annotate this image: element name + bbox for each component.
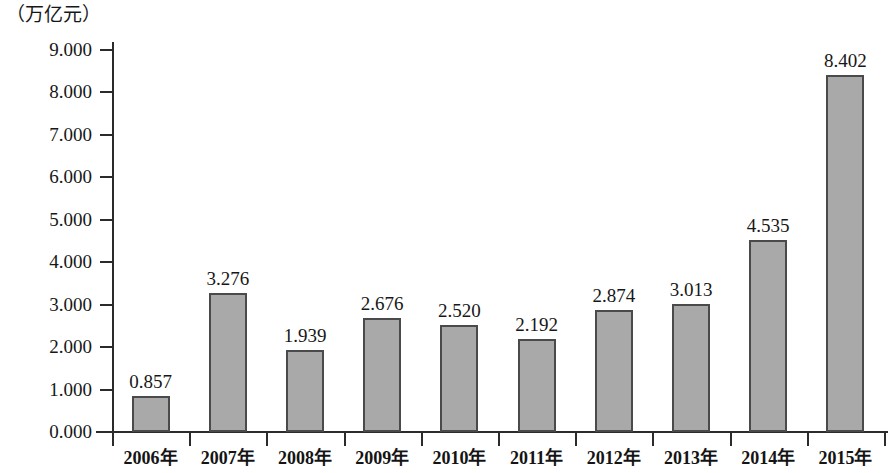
- bar-value-label: 4.535: [728, 216, 808, 236]
- x-axis-tick: [498, 433, 500, 446]
- x-axis-tick: [344, 433, 346, 446]
- x-axis-tick-label: 2010年: [421, 448, 498, 468]
- y-axis-tick: [100, 91, 112, 93]
- bar: [749, 240, 787, 432]
- y-axis-unit-label: （万亿元）: [6, 4, 101, 26]
- y-axis-tick-label: 6.000: [16, 167, 92, 186]
- y-axis-tick-label: 7.000: [16, 125, 92, 144]
- bar: [363, 318, 401, 432]
- x-axis-tick: [421, 433, 423, 446]
- y-axis-tick-label: 3.000: [16, 295, 92, 314]
- y-axis-tick-label: 2.000: [16, 337, 92, 356]
- x-axis-tick: [807, 433, 809, 446]
- bar-value-label: 2.192: [497, 315, 577, 335]
- y-axis-tick: [100, 134, 112, 136]
- x-axis-tick: [730, 433, 732, 446]
- bar-value-label: 2.676: [342, 294, 422, 314]
- x-axis-tick: [266, 433, 268, 446]
- bar: [518, 339, 556, 432]
- bar-value-label: 2.520: [419, 301, 499, 321]
- x-axis-tick-label: 2015年: [807, 448, 884, 468]
- x-axis-tick: [884, 433, 886, 446]
- x-axis-tick-label: 2013年: [652, 448, 729, 468]
- x-axis-tick-label: 2014年: [730, 448, 807, 468]
- y-axis-tick-label: 4.000: [16, 252, 92, 271]
- plot-area: 0.8573.2761.9392.6762.5202.1922.8743.013…: [112, 50, 884, 432]
- x-axis-tick-label: 2011年: [498, 448, 575, 468]
- y-axis-tick: [100, 346, 112, 348]
- x-axis-tick-label: 2007年: [189, 448, 266, 468]
- bar: [209, 293, 247, 432]
- bar: [132, 396, 170, 432]
- bar: [440, 325, 478, 432]
- y-axis-tick-label: 1.000: [16, 380, 92, 399]
- bar: [286, 350, 324, 432]
- bar: [826, 75, 864, 432]
- bar-value-label: 3.276: [188, 269, 268, 289]
- y-axis-tick: [100, 219, 112, 221]
- y-axis-tick: [100, 304, 112, 306]
- bar-chart: （万亿元） 9.0008.0007.0006.0005.0004.0003.00…: [0, 0, 895, 473]
- y-axis-tick-label: 0.000: [16, 422, 92, 441]
- x-axis-tick: [112, 433, 114, 446]
- y-axis-tick: [100, 49, 112, 51]
- x-axis-tick: [652, 433, 654, 446]
- x-axis-tick-label: 2008年: [266, 448, 343, 468]
- y-axis-tick: [100, 176, 112, 178]
- bar-value-label: 1.939: [265, 326, 345, 346]
- bar-value-label: 2.874: [574, 286, 654, 306]
- x-axis-tick: [575, 433, 577, 446]
- bar: [595, 310, 633, 432]
- x-axis-tick-label: 2012年: [575, 448, 652, 468]
- bar-value-label: 8.402: [805, 51, 885, 71]
- bar-value-label: 0.857: [111, 372, 191, 392]
- bar: [672, 304, 710, 432]
- y-axis-tick-label: 9.000: [16, 40, 92, 59]
- x-axis-tick: [189, 433, 191, 446]
- y-axis-tick-label: 5.000: [16, 210, 92, 229]
- y-axis-tick-label: 8.000: [16, 82, 92, 101]
- y-axis-tick: [100, 261, 112, 263]
- x-axis-tick-label: 2006年: [112, 448, 189, 468]
- x-axis-tick-label: 2009年: [344, 448, 421, 468]
- bar-value-label: 3.013: [651, 280, 731, 300]
